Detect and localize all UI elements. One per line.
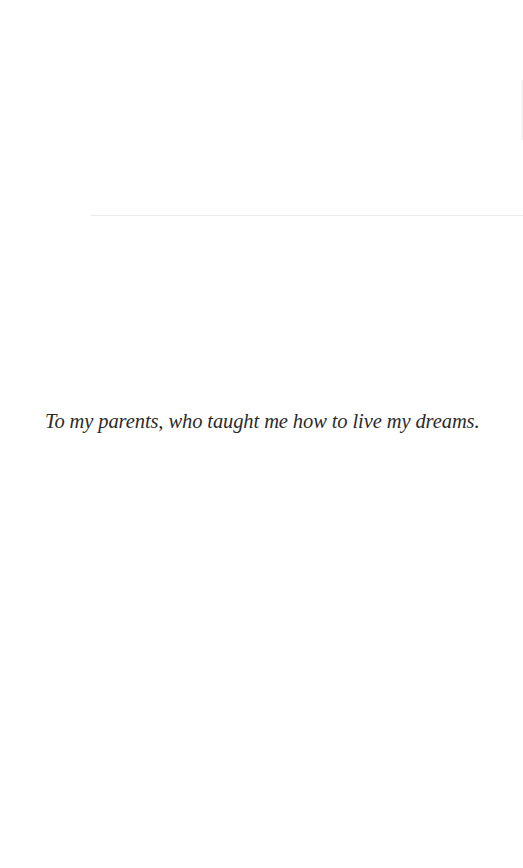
horizontal-rule bbox=[90, 215, 523, 216]
dedication-text: To my parents, who taught me how to live… bbox=[45, 410, 480, 433]
